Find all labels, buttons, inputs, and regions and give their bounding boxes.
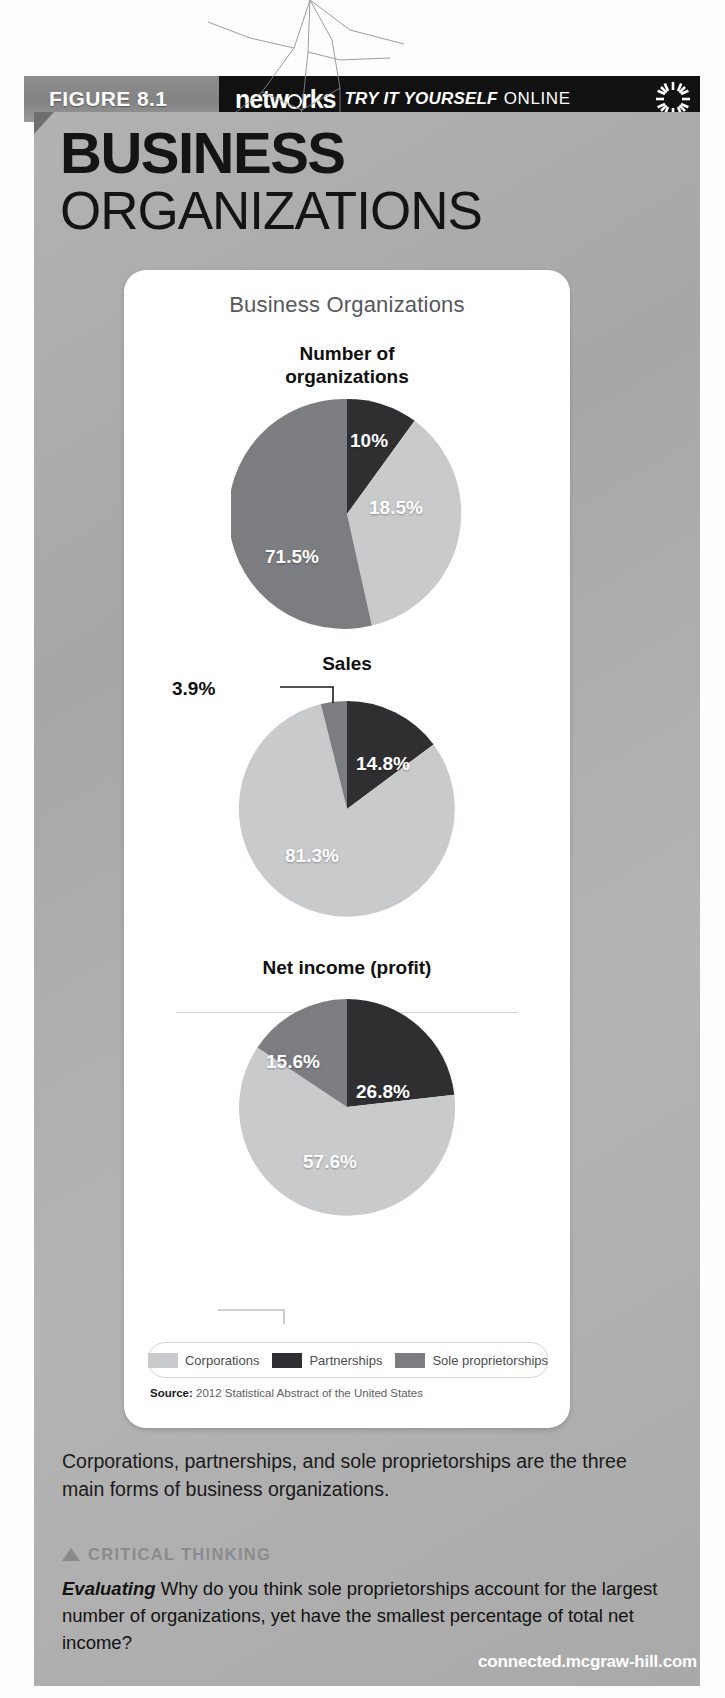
- chart-1-plot: 10% 18.5% 71.5%: [124, 398, 570, 634]
- chart-card: Business Organizations Number of organiz…: [124, 270, 570, 1428]
- chart-1-label-partnerships: 10%: [350, 430, 388, 452]
- chart-2-label-corporations: 81.3%: [285, 845, 339, 867]
- connected-url[interactable]: connected.mcgraw-hill.com: [478, 1652, 697, 1672]
- chart-2-label-sole-proprietorships: 3.9%: [172, 678, 215, 700]
- globe-icon: [287, 94, 302, 109]
- critical-thinking-prompt-label: Evaluating: [62, 1578, 156, 1599]
- figure-label: FIGURE 8.1: [24, 87, 167, 111]
- chart-card-title: Business Organizations: [124, 270, 570, 318]
- figure-title: BUSINESS ORGANIZATIONS: [60, 125, 660, 238]
- chart-number-of-organizations: Number of organizations 10% 18.5% 71.5%: [124, 342, 570, 634]
- legend-swatch-corporations: [148, 1353, 178, 1368]
- legend-item-partnerships[interactable]: Partnerships: [272, 1353, 382, 1368]
- page-title-line2: ORGANIZATIONS: [60, 184, 660, 238]
- legend-item-sole-proprietorships[interactable]: Sole proprietorships: [395, 1353, 548, 1368]
- chart-1-label-corporations: 18.5%: [369, 497, 423, 519]
- triangle-icon: [62, 1548, 80, 1561]
- critical-thinking-header: CRITICAL THINKING: [62, 1545, 271, 1564]
- legend-label-partnerships: Partnerships: [309, 1353, 382, 1368]
- chart-1-title: Number of organizations: [124, 342, 570, 388]
- source-note: Source: 2012 Statistical Abstract of the…: [150, 1387, 423, 1399]
- figure-page: FIGURE 8.1 netwrks TRY IT YOURSELF ONLIN…: [0, 0, 725, 1698]
- source-text: 2012 Statistical Abstract of the United …: [196, 1387, 423, 1399]
- online-label: ONLINE: [504, 89, 571, 109]
- critical-thinking-heading: CRITICAL THINKING: [88, 1545, 271, 1564]
- networks-logo-tail: rks: [301, 85, 336, 113]
- chart-2-pie: [222, 684, 472, 934]
- chart-1-pie: [231, 398, 463, 630]
- chart-3-label-corporations: 57.6%: [303, 1151, 357, 1173]
- chart-3-plot: 26.8% 57.6% 15.6%: [124, 989, 570, 1229]
- chart-net-income: Net income (profit) 26.8% 57.6% 15.6%: [124, 956, 570, 1229]
- networks-logo-text: netw: [235, 85, 288, 113]
- chart-sales: Sales 14.8% 81.3% 3.9%: [124, 652, 570, 933]
- chart-3-label-sole-proprietorships: 15.6%: [266, 1051, 320, 1073]
- chart-2-label-partnerships: 14.8%: [356, 753, 410, 775]
- chart-2-leader-line: [280, 687, 333, 703]
- legend-swatch-partnerships: [272, 1353, 302, 1368]
- page-title-line1: BUSINESS: [60, 125, 660, 182]
- figure-caption: Corporations, partnerships, and sole pro…: [62, 1448, 652, 1503]
- legend-item-corporations[interactable]: Corporations: [148, 1353, 259, 1368]
- source-label: Source:: [150, 1387, 193, 1399]
- networks-logo: netwrks: [235, 85, 336, 114]
- legend-label-sole-proprietorships: Sole proprietorships: [432, 1353, 548, 1368]
- try-it-yourself-label: TRY IT YOURSELF: [345, 89, 498, 109]
- legend-swatch-sole-proprietorships: [395, 1353, 425, 1368]
- critical-thinking-body: Evaluating Why do you think sole proprie…: [62, 1576, 658, 1656]
- chart-legend: Corporations Partnerships Sole proprieto…: [148, 1342, 548, 1378]
- chart-3-title: Net income (profit): [124, 956, 570, 979]
- chart-2-title: Sales: [124, 652, 570, 675]
- chart-3-leader-line: [216, 1306, 286, 1326]
- chart-3-pie: [229, 989, 465, 1225]
- chart-1-label-sole-proprietorships: 71.5%: [265, 546, 319, 568]
- chart-2-plot: 14.8% 81.3% 3.9%: [124, 684, 570, 934]
- legend-label-corporations: Corporations: [185, 1353, 259, 1368]
- chart-3-label-partnerships: 26.8%: [356, 1081, 410, 1103]
